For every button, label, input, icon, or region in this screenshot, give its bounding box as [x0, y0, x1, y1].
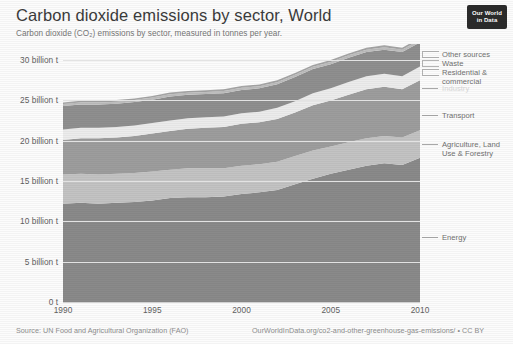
x-axis-line: [63, 302, 420, 303]
legend-marker-icon: [422, 88, 438, 89]
y-axis-tick-label: 20 billion t: [20, 136, 58, 146]
chart-title: Carbon dioxide emissions by sector, Worl…: [16, 6, 453, 25]
legend-item-other-sources[interactable]: Other sources: [420, 50, 490, 59]
plot-area: [63, 44, 420, 302]
legend-marker-icon: [422, 51, 439, 58]
legend-item-agriculture-land-use-forestry[interactable]: Agriculture, Land Use & Forestry: [420, 140, 500, 158]
y-axis-tick-label: 15 billion t: [20, 176, 58, 186]
logo-line-1: Our World: [472, 10, 502, 18]
legend-marker-icon: [422, 144, 438, 145]
logo-line-2: in Data: [477, 17, 498, 25]
gridline: [63, 100, 420, 101]
x-axis-tick-label: 1995: [143, 305, 162, 315]
x-axis-tick-label: 2005: [321, 305, 340, 315]
y-axis-tick-label: 25 billion t: [20, 95, 58, 105]
credit-link[interactable]: OurWorldInData.org/co2-and-other-greenho…: [252, 326, 484, 335]
gridline: [63, 141, 420, 142]
legend-item-industry[interactable]: Industry: [420, 84, 469, 93]
chart-header: Carbon dioxide emissions by sector, Worl…: [16, 6, 453, 39]
legend-marker-icon: [422, 237, 438, 238]
x-axis-tick-label: 1990: [54, 305, 73, 315]
gridline: [63, 181, 420, 182]
gridline: [63, 221, 420, 222]
chart-footer: Source: UN Food and Agricultural Organiz…: [0, 326, 513, 340]
gridline: [63, 262, 420, 263]
legend-marker-icon: [422, 69, 439, 76]
y-axis: 0 t5 billion t10 billion t15 billion t20…: [0, 44, 63, 302]
stacked-area-series: [63, 44, 420, 302]
legend-item-waste[interactable]: Waste: [420, 59, 463, 68]
y-axis-tick-label: 5 billion t: [25, 257, 58, 267]
gridline: [63, 60, 420, 61]
legend-marker-icon: [422, 115, 438, 116]
x-axis-tick-label: 2000: [232, 305, 251, 315]
y-axis-tick-label: 10 billion t: [20, 216, 58, 226]
x-axis-tick-label: 2010: [411, 305, 430, 315]
y-axis-tick-label: 30 billion t: [20, 55, 58, 65]
chart-legend: Other sourcesWasteResidential & commerci…: [420, 44, 513, 302]
source-note: Source: UN Food and Agricultural Organiz…: [16, 326, 189, 335]
legend-item-energy[interactable]: Energy: [420, 233, 466, 242]
our-world-in-data-logo[interactable]: Our World in Data: [467, 5, 507, 29]
chart-container: Carbon dioxide emissions by sector, Worl…: [0, 0, 513, 344]
legend-label: Industry: [420, 84, 469, 93]
legend-label: Transport: [420, 111, 474, 120]
legend-item-transport[interactable]: Transport: [420, 111, 474, 120]
legend-label: Energy: [420, 233, 466, 242]
legend-marker-icon: [422, 60, 439, 67]
chart-subtitle: Carbon dioxide (CO₂) emissions by sector…: [16, 28, 453, 39]
